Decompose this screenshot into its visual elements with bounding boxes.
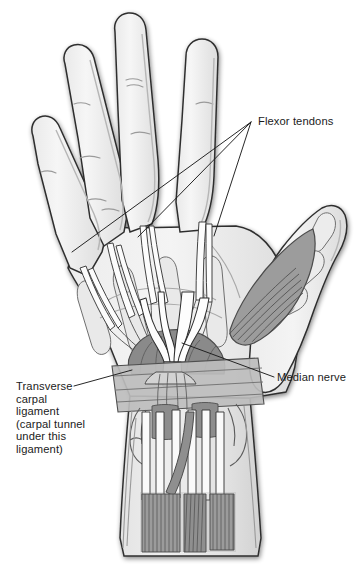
forearm-muscle-bellies: [140, 492, 236, 552]
leader-flexor-3: [214, 122, 251, 236]
transverse-carpal-ligament: [112, 358, 264, 412]
label-transverse-carpal-ligament: Transverse carpal ligament (carpal tunne…: [16, 380, 85, 456]
anatomical-illustration: Flexor tendons Median nerve Transverse c…: [0, 0, 361, 572]
middle-finger-digit: [115, 13, 159, 232]
hand-anatomy-diagram: [0, 0, 361, 572]
label-flexor-tendons: Flexor tendons: [258, 115, 333, 128]
label-median-nerve: Median nerve: [277, 371, 346, 384]
